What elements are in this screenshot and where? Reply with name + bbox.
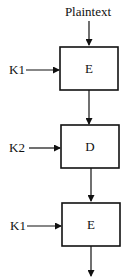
stage-2-key: K2: [9, 140, 25, 155]
stage-1-key: K1: [9, 62, 25, 77]
stage-1: E K1: [9, 47, 118, 90]
stage-2-op: D: [85, 139, 94, 154]
stage-3: E K1: [10, 203, 120, 246]
triple-des-diagram: Plaintext E K1 D K2 E K1: [0, 0, 137, 278]
stage-2: D K2: [9, 125, 119, 168]
stage-3-op: E: [87, 217, 95, 232]
stage-1-op: E: [85, 61, 93, 76]
stage-3-key: K1: [10, 218, 26, 233]
plaintext-label: Plaintext: [65, 4, 112, 19]
